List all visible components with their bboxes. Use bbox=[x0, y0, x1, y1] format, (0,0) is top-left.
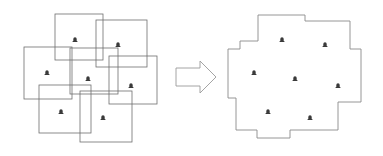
region-rectangle[interactable] bbox=[96, 20, 147, 67]
marker-body bbox=[293, 76, 296, 80]
marker-base bbox=[101, 119, 106, 120]
marker-body bbox=[86, 76, 89, 80]
marker-body bbox=[59, 109, 62, 113]
merged-polygon-panel bbox=[228, 15, 361, 138]
marker-body bbox=[252, 70, 255, 74]
marker-body bbox=[116, 42, 119, 46]
marker-base bbox=[86, 80, 91, 81]
marker-base bbox=[280, 41, 285, 42]
region-rectangle[interactable] bbox=[39, 85, 91, 133]
marker-base bbox=[73, 41, 78, 42]
marker-body bbox=[101, 115, 104, 119]
transform-arrow bbox=[176, 61, 216, 93]
marker-base bbox=[45, 74, 50, 75]
marker-base bbox=[59, 113, 64, 114]
marker-body bbox=[73, 37, 76, 41]
marker-body bbox=[308, 115, 311, 119]
marker-body bbox=[45, 70, 48, 74]
marker-base bbox=[252, 74, 257, 75]
merge-polygons-diagram bbox=[0, 0, 383, 156]
marker-body bbox=[266, 109, 269, 113]
map-pin-icon bbox=[101, 115, 106, 120]
marker-group-left bbox=[45, 37, 134, 120]
region-rectangle[interactable] bbox=[70, 48, 118, 94]
marker-base bbox=[323, 46, 328, 47]
rectangle-group bbox=[24, 14, 157, 142]
region-rectangle[interactable] bbox=[109, 56, 157, 104]
map-pin-icon bbox=[129, 83, 134, 88]
map-pin-icon bbox=[73, 37, 78, 42]
map-pin-icon bbox=[45, 70, 50, 75]
diagram-root bbox=[0, 0, 383, 156]
map-pin-icon bbox=[59, 109, 64, 114]
marker-base bbox=[266, 113, 271, 114]
marker-base bbox=[116, 46, 121, 47]
map-pin-icon bbox=[86, 76, 91, 81]
overlapping-rectangles-panel bbox=[24, 14, 157, 142]
marker-base bbox=[336, 87, 341, 88]
map-pin-icon bbox=[116, 42, 121, 47]
marker-base bbox=[293, 80, 298, 81]
marker-body bbox=[280, 37, 283, 41]
marker-body bbox=[336, 83, 339, 87]
marker-base bbox=[308, 119, 313, 120]
region-rectangle[interactable] bbox=[80, 91, 132, 142]
marker-body bbox=[323, 42, 326, 46]
right-arrow-icon bbox=[176, 61, 216, 93]
marker-body bbox=[129, 83, 132, 87]
marker-base bbox=[129, 87, 134, 88]
